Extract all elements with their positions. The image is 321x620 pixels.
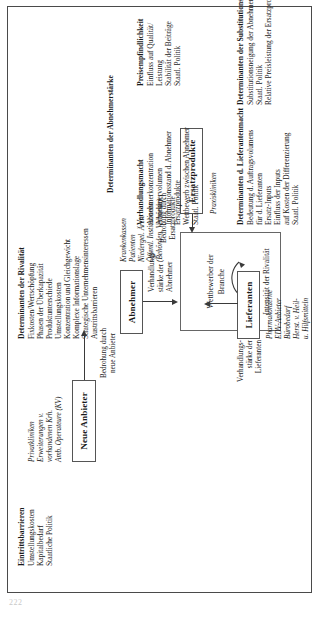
- buyer-power-price-sensitivity-heading: Preisempfindlichkeit: [137, 19, 146, 86]
- supplier-power-heading: Determinanten d. Lieferantenmacht: [237, 108, 246, 225]
- suppliers-arrow-label-3: Lieferanten: [255, 340, 263, 396]
- rotated-figure-wrapper: Eintrittsbarrieren Umstellungskosten Kap…: [8, 7, 311, 592]
- arrowhead-suppliers-icon: [204, 302, 210, 308]
- rivalry-heading: Determinanten der Rivalität: [18, 247, 27, 339]
- entry-barriers-item-2: Staatliche Politik: [46, 515, 54, 566]
- arrowhead-substitutes-icon: [189, 227, 195, 233]
- new-entrants-arrow-label-1: Bedrohung durch: [100, 322, 108, 384]
- suppliers-example-2: Bürobedarf: [284, 306, 292, 339]
- suppliers-example-1: EDV-Anbieter: [275, 298, 283, 339]
- buyers-example-0: Krankenkassen: [120, 218, 128, 262]
- page-number: 222: [9, 598, 23, 607]
- new-entrants-example-3: Amb. Operateure (KV): [55, 397, 63, 462]
- suppliers-arrow-label-1: Verhandlungs-: [237, 340, 245, 396]
- rivalry-item-7: Austrittsbarrieren: [91, 287, 99, 339]
- buyers-arrow-label-1: Verhandlungs-: [148, 230, 156, 292]
- buyers-example-1: Patienten: [129, 234, 137, 262]
- suppliers-example-0: Pharmakonzerne: [266, 290, 274, 339]
- page-border-frame: Eintrittsbarrieren Umstellungskosten Kap…: [7, 6, 312, 593]
- node-buyers[interactable]: Abnehmer: [120, 270, 143, 334]
- porter-five-forces-diagram: Eintrittsbarrieren Umstellungskosten Kap…: [8, 7, 311, 592]
- new-entrants-example-1: Erweiterungen v.: [37, 413, 45, 462]
- suppliers-example-4: u. Hilfsmitteln: [302, 298, 310, 339]
- suppliers-arrow-label-2: stärke der: [246, 340, 254, 396]
- substitution-threat-item-2: Relative Preisleistung der Ersatzprodukt…: [265, 0, 273, 105]
- suppliers-example-3: Herst. v. Heil-: [293, 298, 301, 339]
- buyer-power-negotiation-heading: Verhandlungsmacht: [137, 159, 146, 225]
- arrow-line-suppliers: [208, 303, 238, 304]
- arrow-line-new-entrants: [84, 335, 85, 380]
- node-suppliers[interactable]: Lieferanten: [237, 271, 260, 339]
- arrowhead-new-entrants-icon: [81, 330, 87, 336]
- document-page: Eintrittsbarrieren Umstellungskosten Kap…: [0, 0, 321, 620]
- substitutes-example-0: Praxiskliniken: [210, 172, 218, 214]
- buyer-power-negotiation-item-5: Staatl. Politik: [192, 185, 200, 225]
- arrowhead-buyers-icon: [172, 300, 178, 306]
- arrow-line-buyers: [143, 301, 175, 302]
- new-entrants-example-0: Privatkliniken: [28, 421, 36, 462]
- supplier-power-item-5: Staatl. Politik: [292, 185, 300, 225]
- buyer-power-heading: Determinanten der Abnehmerstärke: [107, 75, 116, 193]
- substitution-threat-heading: Determinanten der Substitutionsgefahr: [237, 0, 246, 105]
- new-entrants-arrow-label-2: neue Anbieter: [109, 322, 117, 384]
- new-entrants-example-2: vorhandenen Krh.: [46, 410, 54, 462]
- buyer-power-price-sensitivity-item-3: Staatl. Politik: [174, 46, 182, 86]
- node-new-entrants[interactable]: Neue Anbieter: [72, 380, 96, 462]
- entry-barriers-heading: Eintrittsbarrieren: [18, 508, 27, 567]
